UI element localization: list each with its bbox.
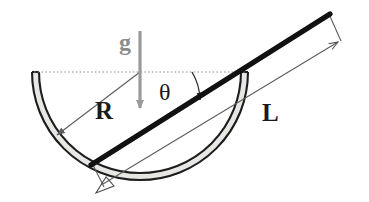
diagram-canvas xyxy=(0,0,369,202)
gravity-label: g xyxy=(119,30,131,54)
length-label: L xyxy=(262,100,279,125)
length-extension-tick-top xyxy=(329,14,341,41)
length-dimension-line xyxy=(103,42,338,184)
physics-diagram: R L g θ xyxy=(0,0,369,202)
angle-label: θ xyxy=(159,80,171,104)
radius-label: R xyxy=(95,98,113,123)
